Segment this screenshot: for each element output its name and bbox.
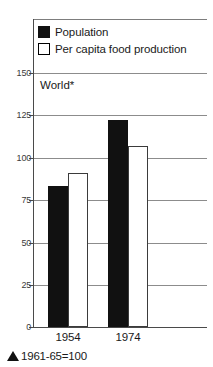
bar-1974-population xyxy=(108,120,128,327)
x-axis-label-1974: 1974 xyxy=(105,331,151,343)
bar-1954-population xyxy=(48,186,68,327)
footnote-text: 1961-65=100 xyxy=(21,350,87,362)
bar-1974-food-production xyxy=(128,146,148,327)
x-axis-label-1954: 1954 xyxy=(45,331,91,343)
bars-layer xyxy=(0,0,213,367)
bar-chart: 150 125 100 75 50 25 0 Population Per ca… xyxy=(0,0,213,367)
bar-1954-food-production xyxy=(68,173,88,327)
chart-footnote: 1961-65=100 xyxy=(7,350,87,362)
triangle-up-icon xyxy=(7,351,19,361)
